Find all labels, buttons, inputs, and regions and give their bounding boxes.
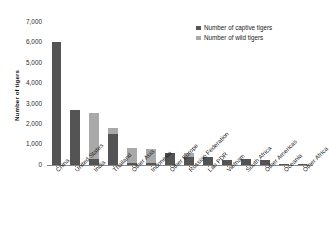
legend-item: Number of captive tigers [196, 25, 272, 31]
y-axis-tick-label: 3,000 [16, 101, 42, 107]
y-axis-tick-label: 0 [16, 162, 42, 168]
y-axis-tick-label: 4,000 [16, 80, 42, 86]
chart-legend: Number of captive tigersNumber of wild t… [196, 25, 272, 45]
legend-item-label: Number of captive tigers [204, 25, 272, 31]
legend-swatch-icon [196, 36, 201, 41]
bar-group [52, 42, 62, 165]
y-axis-tick-labels: 7,0006,0005,0004,0003,0002,0001,0000 [12, 0, 42, 230]
bar-segment-captive-tigers [70, 110, 80, 165]
legend-item: Number of wild tigers [196, 35, 272, 41]
y-axis-tick-label: 1,000 [16, 141, 42, 147]
y-axis-tick-label: 2,000 [16, 121, 42, 127]
bar-segment-captive-tigers [52, 42, 62, 165]
bar-group [70, 110, 80, 165]
plot-area [47, 22, 312, 165]
y-axis-tick-label: 5,000 [16, 60, 42, 66]
y-axis-tick-label: 7,000 [16, 19, 42, 25]
bar-group [108, 128, 118, 165]
y-axis-tick-label: 6,000 [16, 39, 42, 45]
legend-swatch-icon [196, 26, 201, 31]
legend-item-label: Number of wild tigers [204, 35, 263, 41]
